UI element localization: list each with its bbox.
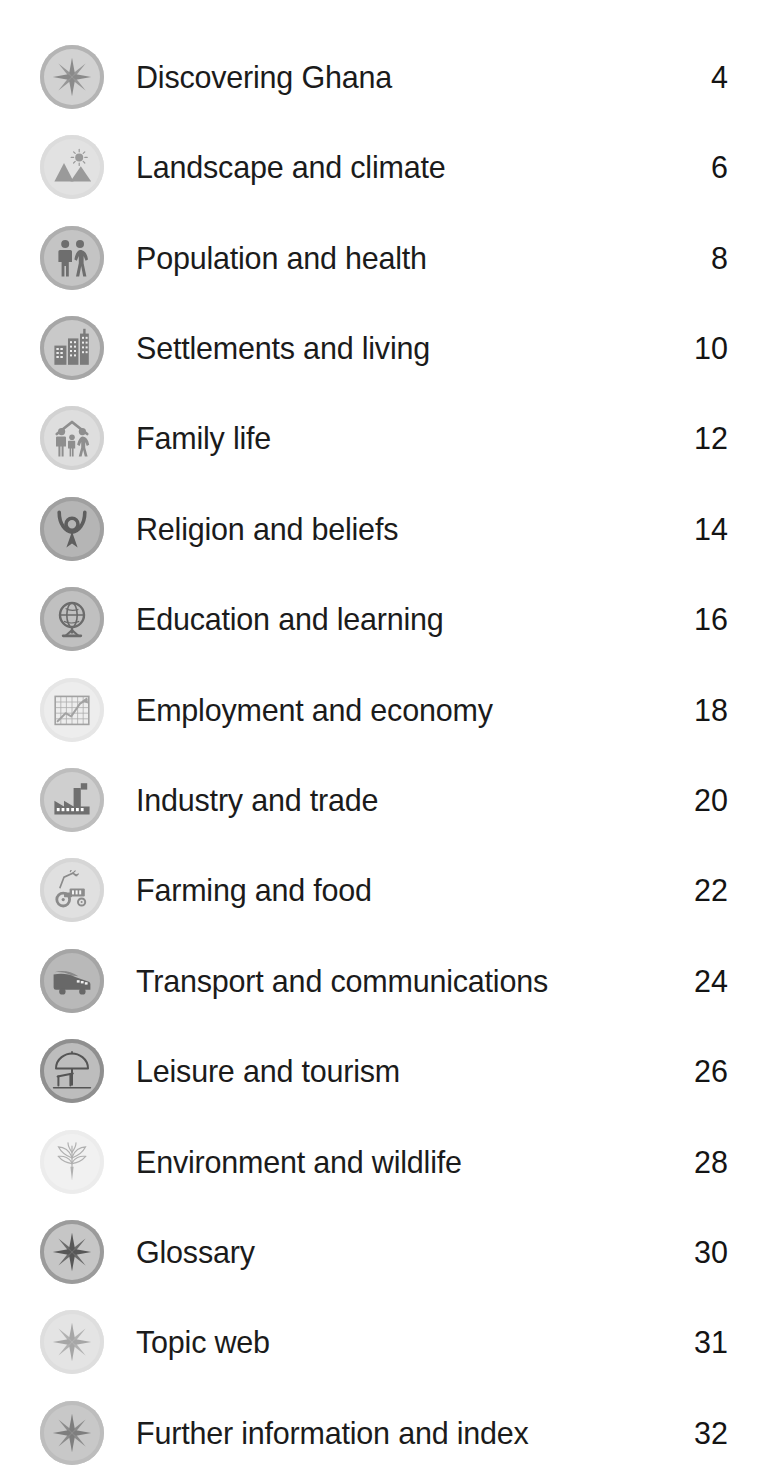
compass-rose-icon (40, 1220, 104, 1284)
toc-entry[interactable]: Discovering Ghana4 (0, 32, 777, 122)
toc-entry-page-number: 12 (620, 423, 728, 454)
toc-entry-page-number: 32 (620, 1418, 728, 1449)
toc-entry-page-number: 24 (620, 966, 728, 997)
toc-entry-page-number: 4 (620, 62, 728, 93)
family-house-icon (40, 406, 104, 470)
tractor-icon (40, 858, 104, 922)
toc-entry-label: Topic web (136, 1327, 270, 1358)
toc-entry[interactable]: Environment and wildlife28 (0, 1117, 777, 1207)
toc-entry[interactable]: Farming and food22 (0, 845, 777, 935)
chart-graph-icon (40, 678, 104, 742)
compass-rose-icon (40, 1401, 104, 1465)
toc-entry[interactable]: Landscape and climate6 (0, 122, 777, 212)
toc-entry-label: Farming and food (136, 875, 372, 906)
toc-entry-label: Landscape and climate (136, 152, 445, 183)
compass-rose-icon (40, 1310, 104, 1374)
toc-entry[interactable]: Transport and communications24 (0, 936, 777, 1026)
toc-entry-label: Transport and communications (136, 966, 548, 997)
two-people-icon (40, 226, 104, 290)
mountains-sun-icon (40, 135, 104, 199)
toc-entry-label: Discovering Ghana (136, 62, 392, 93)
toc-entry[interactable]: Religion and beliefs14 (0, 484, 777, 574)
toc-entry[interactable]: Population and health8 (0, 213, 777, 303)
toc-entry-page-number: 14 (620, 514, 728, 545)
vehicle-icon (40, 949, 104, 1013)
toc-entry[interactable]: Further information and index32 (0, 1388, 777, 1469)
toc-entry-label: Further information and index (136, 1418, 529, 1449)
toc-entry-page-number: 30 (620, 1237, 728, 1268)
toc-entry-page-number: 28 (620, 1147, 728, 1178)
globe-stand-icon (40, 587, 104, 651)
toc-entry-page-number: 6 (620, 152, 728, 183)
compass-rose-icon (40, 45, 104, 109)
toc-entry-label: Settlements and living (136, 333, 430, 364)
toc-entry-page-number: 18 (620, 695, 728, 726)
city-buildings-icon (40, 316, 104, 380)
toc-entry[interactable]: Employment and economy18 (0, 665, 777, 755)
toc-entry[interactable]: Education and learning16 (0, 574, 777, 664)
toc-entry-page-number: 10 (620, 333, 728, 364)
toc-entry-label: Industry and trade (136, 785, 378, 816)
plant-leaves-icon (40, 1130, 104, 1194)
toc-entry[interactable]: Industry and trade20 (0, 755, 777, 845)
factory-icon (40, 768, 104, 832)
toc-entry-label: Population and health (136, 243, 427, 274)
toc-entry-label: Employment and economy (136, 695, 493, 726)
toc-entry-page-number: 20 (620, 785, 728, 816)
toc-entry-page-number: 22 (620, 875, 728, 906)
toc-entry[interactable]: Topic web31 (0, 1297, 777, 1387)
toc-entry-label: Family life (136, 423, 271, 454)
beach-parasol-icon (40, 1039, 104, 1103)
toc-entry-label: Leisure and tourism (136, 1056, 400, 1087)
toc-entry-label: Education and learning (136, 604, 444, 635)
toc-entry[interactable]: Glossary30 (0, 1207, 777, 1297)
toc-entry-label: Environment and wildlife (136, 1147, 462, 1178)
toc-entry[interactable]: Leisure and tourism26 (0, 1026, 777, 1116)
toc-entry-page-number: 31 (620, 1327, 728, 1358)
toc-entry-page-number: 26 (620, 1056, 728, 1087)
toc-entry-page-number: 8 (620, 243, 728, 274)
toc-entry-page-number: 16 (620, 604, 728, 635)
toc-entry-label: Glossary (136, 1237, 255, 1268)
toc-entry[interactable]: Settlements and living10 (0, 303, 777, 393)
toc-entry-label: Religion and beliefs (136, 514, 398, 545)
praying-figure-icon (40, 497, 104, 561)
toc-entry[interactable]: Family life12 (0, 393, 777, 483)
